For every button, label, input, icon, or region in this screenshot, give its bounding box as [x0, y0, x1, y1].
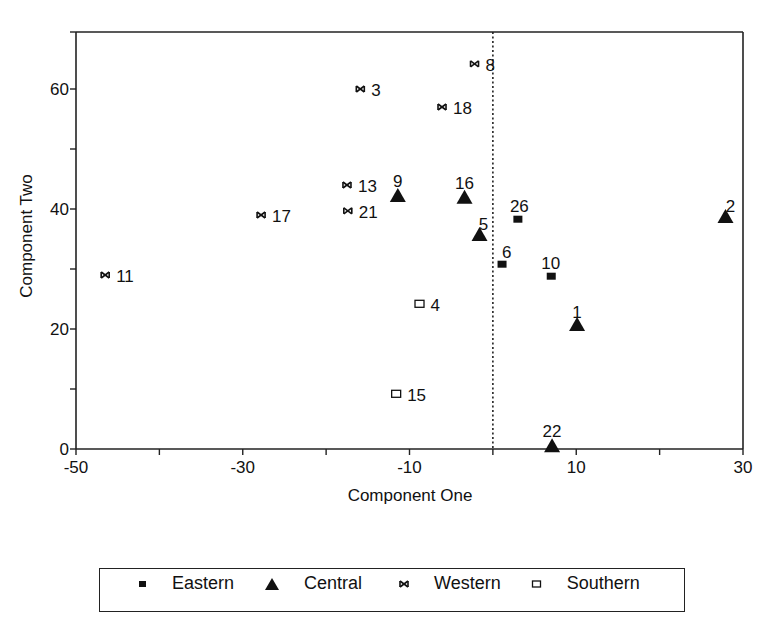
point-label: 13 — [358, 177, 377, 196]
data-point-western-11: 11 — [101, 267, 134, 286]
legend-label: Southern — [567, 573, 640, 594]
legend: Eastern Central Western Southern — [99, 568, 685, 612]
x-tick-label: 30 — [734, 458, 753, 477]
x-tick-label: 10 — [567, 458, 586, 477]
open-square-icon — [531, 579, 543, 589]
y-tick-label: 20 — [50, 320, 69, 339]
data-point-central-22: 22 — [543, 422, 562, 452]
y-tick-label: 40 — [50, 200, 69, 219]
data-point-southern-4: 4 — [415, 296, 440, 315]
point-label: 17 — [272, 207, 291, 226]
data-point-eastern-10: 10 — [541, 254, 560, 280]
point-label: 4 — [431, 296, 440, 315]
data-point-eastern-26: 26 — [510, 197, 529, 223]
point-label: 5 — [479, 215, 488, 234]
x-tick-label: -10 — [397, 458, 422, 477]
x-axis-title: Component One — [348, 486, 473, 505]
data-point-central-16: 16 — [455, 174, 474, 204]
x-tick-label: -50 — [64, 458, 89, 477]
legend-item-western: Western — [398, 573, 501, 594]
data-point-southern-15: 15 — [392, 386, 426, 405]
point-label: 2 — [726, 197, 735, 216]
filled-square-icon — [138, 579, 148, 589]
point-label: 18 — [453, 99, 472, 118]
legend-item-southern: Southern — [531, 573, 640, 594]
point-label: 10 — [541, 254, 560, 273]
y-tick-label: 0 — [60, 440, 69, 459]
scatter-chart: -50-30-101030 0204060 266109165122283181… — [0, 0, 770, 560]
data-point-western-21: 21 — [344, 203, 378, 222]
point-label: 9 — [393, 172, 402, 191]
point-label: 6 — [502, 243, 511, 262]
data-points: 2661091651222831813211711415 — [101, 56, 735, 452]
asterisk-icon — [398, 579, 410, 589]
data-point-central-5: 5 — [472, 215, 489, 241]
point-label: 16 — [455, 174, 474, 193]
data-point-western-17: 17 — [257, 207, 291, 226]
data-point-central-2: 2 — [717, 197, 735, 223]
x-axis: -50-30-101030 — [64, 449, 753, 477]
point-label: 1 — [572, 303, 581, 322]
point-label: 22 — [543, 422, 562, 441]
data-point-central-9: 9 — [390, 172, 406, 202]
point-label: 11 — [116, 267, 134, 286]
legend-label: Eastern — [172, 573, 234, 594]
data-point-western-13: 13 — [343, 177, 377, 196]
point-label: 3 — [371, 81, 380, 100]
legend-item-eastern: Eastern — [138, 573, 234, 594]
data-point-western-3: 3 — [356, 81, 380, 100]
y-axis-title: Component Two — [17, 174, 36, 297]
data-point-western-8: 8 — [471, 56, 495, 75]
filled-triangle-icon — [264, 577, 280, 591]
point-label: 8 — [486, 56, 495, 75]
legend-item-central: Central — [264, 573, 362, 594]
data-point-western-18: 18 — [438, 99, 472, 118]
point-label: 15 — [407, 386, 426, 405]
point-label: 26 — [510, 197, 529, 216]
data-point-central-1: 1 — [569, 303, 585, 331]
data-point-eastern-6: 6 — [498, 243, 512, 268]
point-label: 21 — [359, 203, 378, 222]
y-tick-label: 60 — [50, 80, 69, 99]
legend-label: Central — [304, 573, 362, 594]
legend-label: Western — [434, 573, 501, 594]
x-tick-label: -30 — [230, 458, 255, 477]
y-axis: 0204060 — [50, 32, 76, 459]
